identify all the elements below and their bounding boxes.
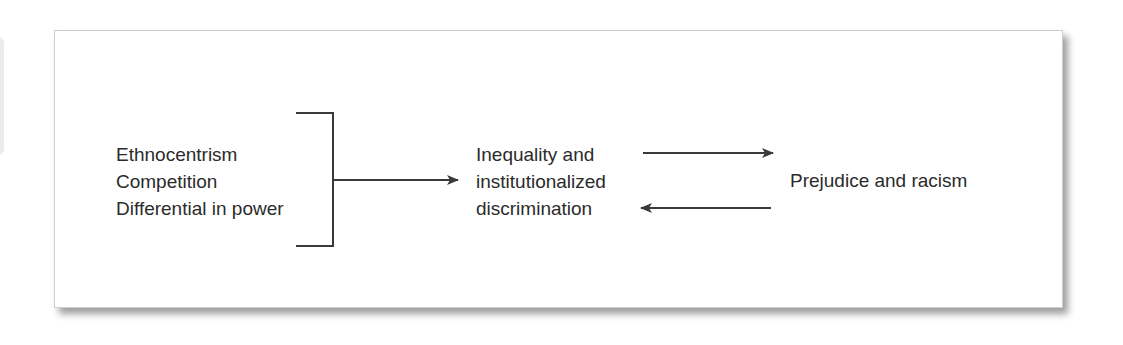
bracket-icon xyxy=(296,113,333,246)
diagram-connectors xyxy=(0,0,1123,345)
